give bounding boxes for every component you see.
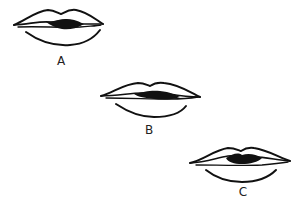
label-a: A <box>57 55 65 67</box>
lips-b-drawing <box>101 83 200 117</box>
lips-a-lower-lip <box>26 30 100 45</box>
lips-c-drawing <box>190 148 290 182</box>
label-c: C <box>239 186 247 198</box>
lips-diagram <box>0 0 303 209</box>
lips-c-lower-lip <box>206 170 276 182</box>
label-b: B <box>145 124 153 136</box>
lips-a-drawing <box>14 10 103 45</box>
lips-c-shadow <box>226 154 262 164</box>
lips-b-lower-lip <box>116 104 186 117</box>
lips-a-shadow <box>46 19 84 29</box>
